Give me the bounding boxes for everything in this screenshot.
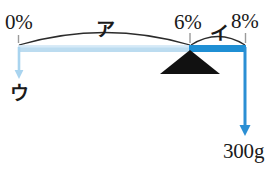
beam-segment-left-highlight [18,46,191,48]
beam-segment-right [189,45,246,52]
label-arrow-right-weight: 300g [223,141,264,162]
label-8-percent: 8% [231,11,259,32]
label-0-percent: 0% [5,12,33,33]
arrow-head-left [15,70,24,79]
label-span-a: ア [96,20,115,39]
triangle-fulcrum [160,50,220,74]
label-6-percent: 6% [174,12,202,33]
arrow-head-right [240,125,251,136]
label-arrow-left-u: ウ [10,84,29,103]
diagram-canvas: 0% 6% 8% ア イ ウ 300g [0,0,275,172]
label-span-i: イ [210,24,229,43]
